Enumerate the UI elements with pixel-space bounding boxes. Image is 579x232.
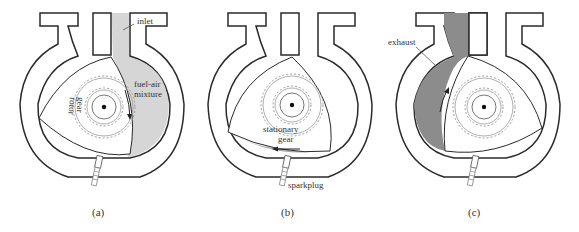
panel-b: stationary gear sparkplug (b) — [208, 13, 372, 219]
mixture-label-2: mixture — [134, 89, 162, 99]
mixture-label-1: fuel-air — [134, 79, 160, 89]
caption-c: (c) — [468, 206, 481, 219]
sparkplug-label: sparkplug — [288, 180, 324, 190]
center-port — [469, 13, 487, 55]
caption-a: (a) — [92, 206, 105, 219]
rotor-gear-label-2: gear — [75, 97, 86, 113]
rotor — [444, 56, 542, 152]
stationary-gear-label-1: stationary — [263, 124, 299, 134]
caption-b: (b) — [281, 206, 294, 219]
stationary-gear-label-2: gear — [278, 134, 294, 144]
panel-a: inlet fuel-air mixture rotor gear (a) — [20, 13, 184, 219]
panel-c: exhaust (c) — [388, 13, 560, 219]
rotary-engine-figure: inlet fuel-air mixture rotor gear (a) st… — [0, 0, 579, 232]
inlet-label: inlet — [137, 16, 153, 26]
exhaust-label: exhaust — [388, 37, 416, 47]
